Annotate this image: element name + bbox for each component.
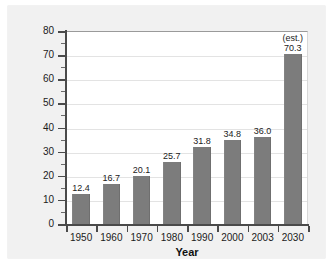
bar-value-label: 12.4 bbox=[66, 183, 96, 193]
x-axis-tick-label: 2030 bbox=[278, 232, 308, 243]
y-axis-tick-major bbox=[58, 200, 65, 202]
y-axis-tick-major bbox=[58, 31, 65, 33]
y-axis-tick-label: 50 bbox=[8, 98, 54, 108]
y-axis-tick-minor bbox=[61, 188, 65, 189]
bar bbox=[224, 140, 242, 224]
y-axis-tick-minor bbox=[61, 212, 65, 213]
gridline bbox=[66, 80, 307, 81]
y-axis-tick-minor bbox=[61, 164, 65, 165]
bar bbox=[284, 54, 302, 224]
y-axis-tick-label: 10 bbox=[8, 195, 54, 205]
y-axis-tick-label: 30 bbox=[8, 147, 54, 157]
y-axis-tick-major bbox=[58, 103, 65, 105]
y-axis-tick-major bbox=[58, 55, 65, 57]
bar bbox=[103, 184, 121, 224]
y-axis-tick-major bbox=[58, 176, 65, 178]
bar bbox=[193, 147, 211, 224]
bar-chart-figure: 01020304050607080 1950196019701980199020… bbox=[0, 0, 333, 272]
y-axis-tick-minor bbox=[61, 115, 65, 116]
y-axis-tick-major bbox=[58, 79, 65, 81]
bar-value-label: 70.3 bbox=[278, 43, 308, 53]
bar bbox=[72, 194, 90, 224]
bar-value-label: 36.0 bbox=[248, 126, 278, 136]
x-axis-tick-label: 1980 bbox=[157, 232, 187, 243]
x-axis-title: Year bbox=[66, 246, 308, 258]
gridline bbox=[66, 56, 307, 57]
y-axis-tick-major bbox=[58, 152, 65, 154]
x-axis-tick-label: 1970 bbox=[127, 232, 157, 243]
bar-value-label: 31.8 bbox=[187, 136, 217, 146]
x-axis-tick-label: 1950 bbox=[66, 232, 96, 243]
y-axis-tick-minor bbox=[61, 67, 65, 68]
y-axis-tick-label: 60 bbox=[8, 74, 54, 84]
x-axis-tick-label: 2000 bbox=[217, 232, 247, 243]
y-axis-tick-label: 0 bbox=[8, 219, 54, 229]
bar-value-label: 20.1 bbox=[127, 165, 157, 175]
y-axis-tick-major bbox=[58, 128, 65, 130]
bar-value-label: 16.7 bbox=[96, 173, 126, 183]
y-axis-tick-label: 40 bbox=[8, 123, 54, 133]
bar bbox=[254, 137, 272, 224]
y-axis-tick-major bbox=[58, 224, 65, 226]
y-axis-tick-minor bbox=[61, 43, 65, 44]
y-axis-tick-label: 80 bbox=[8, 26, 54, 36]
x-axis-tick-label: 1990 bbox=[187, 232, 217, 243]
x-axis-tick-label: 1960 bbox=[96, 232, 126, 243]
x-axis-tick-label: 2003 bbox=[248, 232, 278, 243]
bar bbox=[133, 176, 151, 224]
gridline bbox=[66, 104, 307, 105]
bar-annotation-label: (est.) bbox=[278, 33, 308, 43]
y-axis-line bbox=[65, 30, 67, 225]
x-axis-tick bbox=[308, 226, 310, 232]
bar-value-label: 34.8 bbox=[217, 129, 247, 139]
y-axis-tick-minor bbox=[61, 91, 65, 92]
y-axis-tick-minor bbox=[61, 140, 65, 141]
y-axis-tick-label: 70 bbox=[8, 50, 54, 60]
bar bbox=[163, 162, 181, 224]
y-axis-tick-label: 20 bbox=[8, 171, 54, 181]
bar-value-label: 25.7 bbox=[157, 151, 187, 161]
